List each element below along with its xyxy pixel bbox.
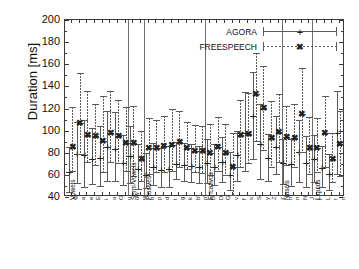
x-tick [171,192,172,195]
y-tick [339,42,343,43]
x-axis-label: p [156,197,162,200]
y-tick-label: 180 [34,35,60,47]
y-tick [65,64,69,65]
y-tick [339,64,343,65]
y-tick-label: 160 [34,57,60,69]
x-tick [79,192,80,195]
x-tick [224,20,225,23]
y-tick-label: 40 [34,190,60,202]
y-tick [65,86,69,87]
y-tick-minor [341,53,343,54]
x-tick [301,192,302,195]
x-axis-label: e [88,197,94,200]
x-axis-label: y [264,197,270,200]
x-tick [262,20,263,23]
x-axis-label: i [103,199,109,200]
x-axis-label: s [248,197,254,200]
x-tick [117,20,118,23]
legend: AGORA + FREESPEECH ✖ [199,24,337,54]
y-tick-minor [341,31,343,32]
x-tick [255,192,256,195]
x-tick [178,192,179,195]
cross-marker-icon: ✖ [336,139,344,148]
x-tick [270,192,271,195]
x-tick [186,20,187,23]
x-axis-label: b' [195,196,201,200]
x-tick [155,192,156,195]
y-tick-minor [341,186,343,187]
x-tick [178,20,179,23]
y-tick [65,42,69,43]
x-axis-label: r [332,198,338,200]
x-tick [102,192,103,195]
legend-label-agora: AGORA [226,27,257,37]
x-tick [247,20,248,23]
x-tick [255,20,256,23]
y-tick [65,20,69,21]
y-tick-minor [65,97,67,98]
x-tick [194,20,195,23]
x-tick [155,20,156,23]
x-axis-group-label: Semi-Vowels [130,162,137,200]
x-tick [148,20,149,23]
x-axis-label: n [294,197,300,200]
y-tick-minor [65,31,67,32]
x-tick [278,192,279,195]
x-tick [140,20,141,23]
y-tick-minor [341,75,343,76]
x-tick [209,20,210,23]
x-axis-group-label: Liquids [314,179,321,200]
x-tick [216,192,217,195]
plus-marker-icon: + [297,26,303,38]
x-tick [316,20,317,23]
x-tick [339,192,340,195]
x-axis-group-label: Fricativos [207,172,214,200]
x-tick [201,20,202,23]
x-axis-group-label: Plosives [145,176,152,200]
x-tick [270,20,271,23]
x-tick [109,20,110,23]
plot-area: ++++++++++++++++++++++++++++++++++++✖✖✖✖… [64,19,344,196]
y-tick [339,86,343,87]
x-tick [278,20,279,23]
x-tick [324,192,325,195]
x-axis-label: t [172,198,178,200]
x-tick [163,192,164,195]
y-tick-minor [65,53,67,54]
x-tick [71,20,72,23]
y-tick-label: 60 [34,168,60,180]
x-tick [109,192,110,195]
x-tick [132,20,133,23]
x-axis-label: g [179,197,185,200]
x-tick [186,192,187,195]
legend-sample-agora: + [263,26,337,37]
x-axis-group-label: Nasals [283,180,290,200]
x-tick [331,20,332,23]
x-tick [140,192,141,195]
x-tick [125,20,126,23]
x-tick [102,20,103,23]
x-axis-label: Z [271,196,277,200]
x-axis-label: a [80,197,86,200]
y-tick-label: 120 [34,102,60,114]
x-tick [293,192,294,195]
y-tick-label: 100 [34,124,60,136]
x-tick [324,20,325,23]
y-tick-minor [65,75,67,76]
x-tick [94,20,95,23]
x-axis-label: v [233,197,239,200]
x-tick [293,20,294,23]
y-tick-label: 80 [34,146,60,158]
legend-item-freespeech: FREESPEECH ✖ [199,39,337,54]
x-tick [239,192,240,195]
x-axis-label: L [325,197,331,200]
x-tick [331,192,332,195]
x-axis-label: N [302,196,308,200]
y-tick-label: 200 [34,13,60,25]
x-tick [239,20,240,23]
x-axis-label: G [225,195,231,200]
x-axis-label: S [256,196,262,200]
x-axis-label: f [241,198,247,200]
x-tick [79,20,80,23]
x-tick [171,20,172,23]
